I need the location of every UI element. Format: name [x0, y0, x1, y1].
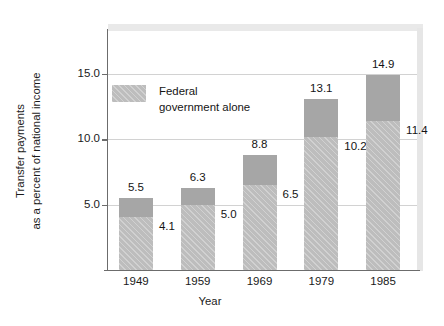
bar-segment-total-1985[interactable] [366, 75, 400, 121]
x-tick-label-1949: 1949 [123, 276, 149, 288]
y-axis-title: Transfer payments as a percent of nation… [0, 31, 56, 270]
bar-1985[interactable] [366, 75, 400, 270]
y-axis-line [107, 29, 108, 271]
value-label-total-1949: 5.5 [128, 182, 144, 194]
y-axis-title-line-1: Transfer payments [12, 72, 28, 229]
x-axis-title-text: Year [199, 295, 222, 307]
y-tick-label-5.0: 5.0 [84, 199, 100, 211]
value-label-total-1979: 13.1 [310, 83, 332, 95]
value-label-federal-1949: 4.1 [159, 221, 175, 233]
x-tick-label-1979: 1979 [309, 276, 335, 288]
scan-artifact-top-band [108, 24, 423, 31]
y-tick-label-15.0: 15.0 [78, 68, 100, 80]
bar-1959[interactable] [181, 188, 215, 270]
x-tick-label-1959: 1959 [185, 276, 211, 288]
value-label-federal-1979: 10.2 [344, 141, 366, 153]
value-label-federal-1969: 6.5 [283, 189, 299, 201]
y-axis-title-line-2: as a percent of national income [28, 72, 44, 229]
chart-legend: Federal government alone [112, 84, 250, 115]
value-label-total-1985: 14.9 [372, 59, 394, 71]
bar-segment-federal-1949[interactable] [119, 217, 153, 271]
bar-segment-total-1949[interactable] [119, 198, 153, 216]
legend-label-federal-line-1: Federal [159, 84, 250, 100]
bar-segment-federal-1985[interactable] [366, 121, 400, 270]
value-label-federal-1959: 5.0 [221, 209, 237, 221]
bar-segment-federal-1959[interactable] [181, 205, 215, 270]
x-tick-label-1985: 1985 [370, 276, 396, 288]
bar-segment-total-1969[interactable] [243, 155, 277, 185]
legend-swatch-federal [112, 85, 146, 102]
x-axis-title: Year [0, 295, 444, 307]
bar-segment-federal-1969[interactable] [243, 185, 277, 270]
value-label-total-1969: 8.8 [252, 139, 268, 151]
legend-label-federal-line-2: government alone [159, 100, 250, 116]
bar-segment-federal-1979[interactable] [304, 137, 338, 270]
bar-1969[interactable] [243, 155, 277, 270]
value-label-total-1959: 6.3 [190, 172, 206, 184]
scan-artifact-right-band [417, 28, 423, 271]
legend-label-federal: Federal government alone [159, 84, 250, 115]
bar-segment-total-1959[interactable] [181, 188, 215, 205]
x-tick-label-1969: 1969 [247, 276, 273, 288]
y-tick-label-10.0: 10.0 [78, 133, 100, 145]
x-axis-line [104, 270, 420, 271]
bar-segment-total-1979[interactable] [304, 99, 338, 137]
chart-figure: Transfer payments as a percent of nation… [0, 0, 444, 326]
bar-1949[interactable] [119, 198, 153, 270]
value-label-federal-1985: 11.4 [406, 125, 428, 137]
plot-area: 5.54.16.35.08.86.513.110.214.911.4 [108, 31, 417, 270]
bar-1979[interactable] [304, 99, 338, 270]
